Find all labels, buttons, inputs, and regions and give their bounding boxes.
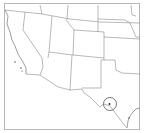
border-oklahoma-texas (101, 60, 140, 74)
coastline-california (5, 10, 26, 74)
border-utah-colorado (66, 20, 74, 55)
border-california-nevada (23, 12, 43, 67)
border-colorado-north (74, 30, 104, 32)
border-newmexico-texas (82, 60, 101, 88)
location-marker (109, 103, 111, 105)
locator-map (0, 0, 144, 133)
border-arizona-newmexico (70, 55, 72, 90)
border-idaho-nevada (40, 5, 42, 14)
border-kansas-south (104, 37, 140, 39)
border-oregon-california (5, 10, 140, 23)
border-arizona-california (40, 67, 43, 75)
border-nebraska-iowa (131, 5, 136, 16)
island-channel-2 (20, 67, 21, 68)
border-idaho-wyoming (67, 5, 68, 20)
island-channel-1 (14, 61, 15, 62)
island-channel-3 (21, 70, 22, 71)
border-utah-arizona (49, 52, 104, 58)
marker-gulf (128, 117, 129, 118)
border-us-mexico (26, 74, 127, 128)
border-nevada-utah (48, 16, 52, 58)
border-nebraska-south (98, 19, 140, 37)
